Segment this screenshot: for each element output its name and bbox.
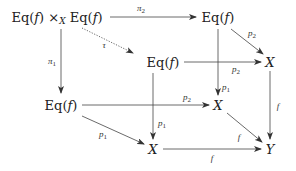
label-mid-p1: p1	[158, 119, 166, 130]
node-eq-left: Eq(f)	[45, 99, 78, 112]
x-right-label: X	[265, 55, 274, 70]
pullback-eq1-post: )	[39, 10, 44, 25]
x-bottom-label: X	[148, 142, 157, 157]
subscript-1: 1	[227, 86, 231, 94]
label-tau: τ	[102, 41, 105, 50]
subscript-1: 1	[53, 60, 57, 68]
label-pi2: π2	[137, 4, 145, 15]
subscript-1: 1	[104, 133, 108, 141]
label-left-p2: p2	[183, 93, 191, 104]
f-symbol: f	[277, 101, 280, 111]
subscript-2: 2	[237, 68, 241, 76]
eq-top-pre: Eq(	[202, 10, 225, 25]
node-x-mid: X	[213, 99, 222, 112]
arrow-top-p2	[231, 29, 263, 54]
arrow-mid-f	[227, 113, 262, 142]
subscript-2: 2	[142, 7, 146, 15]
node-eq-mid: Eq(f)	[147, 56, 180, 69]
pullback-eq2-pre: Eq(	[70, 10, 93, 25]
label-top-p1: p1	[222, 83, 230, 94]
node-x-bottom: X	[148, 143, 157, 156]
pullback-eq1-pre: Eq(	[11, 10, 34, 25]
times-symbol: ×	[48, 10, 59, 25]
label-pi1: π1	[48, 57, 56, 68]
label-mid-f: f	[238, 133, 241, 142]
subscript-2: 2	[253, 32, 257, 40]
eq-mid-pre: Eq(	[147, 55, 170, 70]
eq-mid-post: )	[174, 55, 179, 70]
eq-top-post: )	[229, 10, 234, 25]
x-mid-label: X	[213, 98, 222, 113]
y-bottom-label: Y	[266, 142, 275, 157]
f-symbol: f	[211, 153, 214, 163]
label-right-f: f	[277, 102, 280, 111]
node-x-right: X	[265, 56, 274, 69]
tau-symbol: τ	[102, 40, 105, 50]
f-symbol: f	[238, 132, 241, 142]
eq-left-pre: Eq(	[45, 98, 68, 113]
subscript-1: 1	[163, 122, 167, 130]
node-eq-top: Eq(f)	[202, 11, 235, 24]
label-mid-p2: p2	[232, 65, 240, 76]
arrow-tau	[82, 28, 133, 53]
node-y-bottom: Y	[266, 143, 275, 156]
label-bottom-f: f	[211, 154, 214, 163]
eq-left-post: )	[72, 98, 77, 113]
pullback-subscript: X	[59, 16, 65, 26]
commutative-diagram: Eq(f) ×X Eq(f) Eq(f) Eq(f) X Eq(f) X X Y…	[0, 0, 296, 171]
subscript-2: 2	[188, 96, 192, 104]
arrow-left-p1	[82, 116, 144, 144]
label-top-p2: p2	[248, 29, 256, 40]
label-left-p1: p1	[99, 130, 107, 141]
pullback-eq2-post: )	[98, 10, 103, 25]
node-pullback: Eq(f) ×X Eq(f)	[11, 11, 102, 26]
